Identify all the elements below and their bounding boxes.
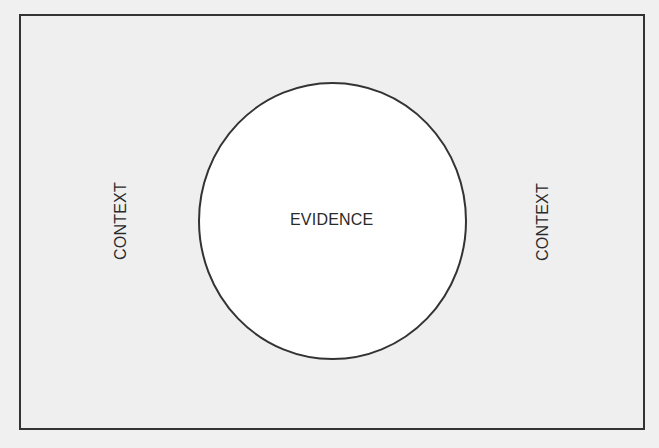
evidence-label: EVIDENCE: [290, 211, 373, 229]
context-label-left: CONTEXT: [112, 176, 130, 266]
context-label-right: CONTEXT: [534, 177, 552, 267]
